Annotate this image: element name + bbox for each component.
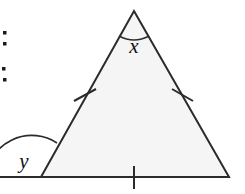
triangle-diagram-svg: x y bbox=[0, 0, 245, 194]
angle-label-x: x bbox=[128, 34, 139, 58]
angle-label-y: y bbox=[17, 149, 29, 173]
colon-mark-lower-2-icon bbox=[3, 78, 7, 82]
colon-mark-lower-icon bbox=[2, 67, 6, 71]
geometry-figure: x y bbox=[0, 0, 245, 194]
colon-mark-upper-2-icon bbox=[3, 42, 7, 46]
colon-mark-upper-icon bbox=[3, 31, 7, 35]
